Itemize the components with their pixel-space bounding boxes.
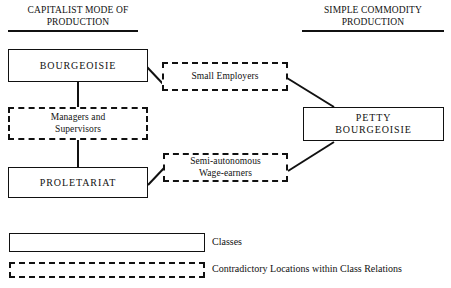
node-semi-autonomous-wage-earners[interactable]: Semi-autonomous Wage-earners — [163, 153, 288, 182]
node-small-employers-label: Small Employers — [191, 71, 258, 83]
diagram-canvas: CAPITALIST MODE OF PRODUCTION SIMPLE COM… — [0, 0, 451, 288]
legend-swatch-classes — [9, 233, 205, 252]
heading-right-line1: SIMPLE COMMODITY — [324, 5, 422, 15]
node-petty-bourgeoisie[interactable]: PETTY BOURGEOISIE — [303, 107, 444, 141]
node-bourgeoisie[interactable]: BOURGEOISIE — [8, 49, 148, 82]
heading-capitalist-mode-of-production: CAPITALIST MODE OF PRODUCTION — [3, 4, 153, 32]
heading-left-line1: CAPITALIST MODE OF — [28, 5, 129, 15]
node-semi-autonomous-label-line1: Semi-autonomous — [190, 156, 261, 168]
node-managers-and-supervisors[interactable]: Managers and Supervisors — [8, 107, 148, 140]
node-small-employers[interactable]: Small Employers — [162, 62, 288, 91]
node-managers-label-line2: Supervisors — [55, 124, 101, 136]
node-managers-label-line1: Managers and — [51, 112, 106, 124]
heading-right-underline — [302, 30, 444, 32]
node-proletariat-label: PROLETARIAT — [40, 177, 116, 189]
heading-simple-commodity-production: SIMPLE COMMODITY PRODUCTION — [298, 4, 448, 32]
heading-right-line2: PRODUCTION — [342, 17, 405, 27]
node-proletariat[interactable]: PROLETARIAT — [8, 167, 148, 198]
legend-swatch-contradictory-locations — [9, 262, 205, 278]
node-bourgeoisie-label: BOURGEOISIE — [40, 60, 117, 72]
node-petty-bourgeoisie-label-line2: BOURGEOISIE — [335, 124, 412, 136]
node-semi-autonomous-label-line2: Wage-earners — [199, 168, 252, 180]
legend-label-contradictory-locations: Contradictory Locations within Class Rel… — [212, 263, 402, 275]
heading-left-line2: PRODUCTION — [47, 17, 110, 27]
node-petty-bourgeoisie-label-line1: PETTY — [356, 112, 392, 124]
heading-left-underline — [8, 30, 138, 32]
legend-label-classes: Classes — [212, 236, 242, 248]
